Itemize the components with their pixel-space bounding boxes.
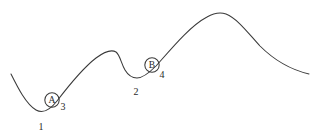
point-label-2: 2 [134,86,139,97]
diagram-canvas: A B 1 2 3 4 [0,0,321,137]
point-label-3: 3 [61,101,66,112]
point-label-4: 4 [160,69,165,80]
marker-a-group: A [45,93,59,107]
point-label-1: 1 [39,121,44,132]
wave-curve-path [11,13,309,112]
curve-figure: A B 1 2 3 4 [0,0,321,137]
marker-b-label: B [149,60,155,70]
marker-a-label: A [49,95,56,105]
